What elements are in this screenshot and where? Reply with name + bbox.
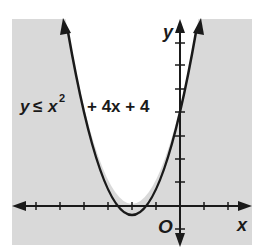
- svg-text:≤: ≤: [33, 97, 42, 116]
- svg-text:2: 2: [59, 92, 65, 104]
- svg-text:y: y: [19, 97, 31, 116]
- inequality-graph: y x O y ≤ x 2 + 4x + 4: [0, 0, 261, 252]
- origin-label: O: [158, 216, 173, 237]
- y-axis-label: y: [162, 22, 174, 42]
- svg-text:+ 4x + 4: + 4x + 4: [87, 97, 150, 116]
- svg-text:x: x: [47, 97, 59, 116]
- x-axis-label: x: [236, 215, 248, 235]
